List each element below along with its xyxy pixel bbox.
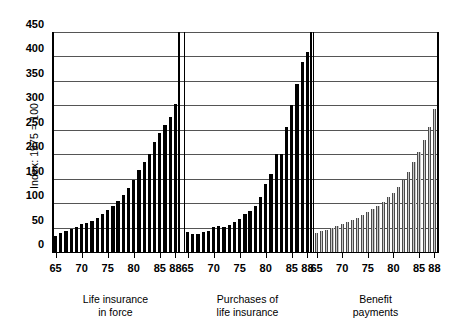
bar [248,211,251,252]
bar [335,226,338,252]
x-tick-label: 75 [356,262,380,274]
x-tick-mark [292,252,293,258]
x-tick-mark [134,252,135,258]
x-tick-mark [214,252,215,258]
x-tick-mark [56,252,57,258]
x-tick-label: 70 [330,262,354,274]
bar [228,225,231,252]
panel-divider [178,32,180,253]
bar [433,109,436,252]
x-tick-label: 75 [228,262,252,274]
bar [174,104,177,252]
bar [351,220,354,252]
x-tick-mark [82,252,83,258]
bar [169,117,172,252]
x-tick-mark [419,252,420,258]
x-tick-label: 65 [176,262,200,274]
x-tick-label: 88 [422,262,446,274]
bar-group [185,32,310,252]
bar [96,218,99,252]
bar [392,193,395,252]
bar [264,184,267,252]
bar [285,127,288,252]
bar [243,214,246,252]
y-tick-label: 300 [14,92,44,103]
bar [325,230,328,252]
bar [382,202,385,252]
bar [356,218,359,252]
bar [137,170,140,252]
bar [158,133,161,252]
bar [122,195,125,252]
bar [402,180,405,252]
bar [371,209,374,252]
bar [127,188,130,252]
x-tick-label: 80 [254,262,278,274]
bar [341,224,344,252]
bar [186,232,189,252]
bar [222,227,225,252]
bar [85,223,88,252]
x-tick-mark [434,252,435,258]
bar [361,215,364,252]
caption-line-2: payments [296,306,450,319]
bar-group [314,32,437,252]
x-tick-mark [240,252,241,258]
bar [212,227,215,252]
x-tick-mark [108,252,109,258]
x-tick-mark [188,252,189,258]
bar [254,206,257,252]
x-tick-mark [368,252,369,258]
bar [106,210,109,252]
x-tick-mark [160,252,161,258]
x-tick-label: 70 [70,262,94,274]
x-tick-mark [307,252,308,258]
bar [259,197,262,252]
y-tick-label: 250 [14,117,44,128]
bar [269,174,272,252]
bar-group [53,32,178,252]
bar [330,228,333,252]
bar-chart: Index: 1975 = 100 0501001502002503003504… [0,0,450,336]
bar [111,206,114,252]
bar [280,154,283,252]
bar [64,231,67,252]
x-tick-mark [266,252,267,258]
bar [423,140,426,252]
panel-divider [310,32,312,253]
bar [428,127,431,252]
bar [75,227,78,252]
x-tick-mark [175,252,176,258]
y-tick-label: 400 [14,43,44,54]
panel-purchases-of-life-insurance [185,32,310,252]
bar [207,231,210,252]
bar [54,236,57,252]
gridline [52,252,437,253]
bar [238,219,241,252]
y-tick-label: 0 [14,239,44,250]
panel-life-insurance-in-force [53,32,178,252]
y-tick-label: 450 [14,19,44,30]
x-tick-mark [393,252,394,258]
x-tick-label: 70 [202,262,226,274]
bar [148,154,151,252]
bar [407,172,410,252]
y-tick-label: 200 [14,141,44,152]
panel-divider [184,32,186,253]
bar [320,231,323,252]
panel-benefit-payments [314,32,437,252]
bar [417,152,420,252]
bar [116,201,119,252]
bar [295,84,298,252]
bar [80,224,83,252]
y-tick-label: 350 [14,68,44,79]
bar [306,52,309,252]
x-tick-label: 75 [96,262,120,274]
panel-caption-benefit-payments: Benefitpayments [296,293,450,318]
y-tick-label: 50 [14,215,44,226]
bar [59,233,62,252]
panel-divider [313,32,315,253]
x-tick-mark [342,252,343,258]
panel-divider [437,32,439,253]
bar [346,222,349,252]
